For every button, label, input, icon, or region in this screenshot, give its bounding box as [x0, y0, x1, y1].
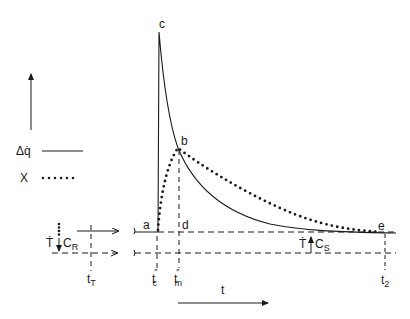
- cs-tdot: Ṫ: [299, 237, 307, 251]
- point-b-label: b: [181, 134, 188, 148]
- point-c-label: c: [159, 17, 165, 31]
- diagram-canvas: Δq̇ X c b a d e Ṫ CR: [0, 0, 410, 319]
- point-a-label: a: [143, 218, 150, 232]
- legend: Δq̇ X: [16, 144, 83, 185]
- time-axis-arrow: t: [178, 283, 268, 303]
- x-curve: [158, 148, 380, 232]
- time-axis-label: t: [221, 283, 225, 297]
- cr-tdot: Ṫ: [46, 236, 54, 250]
- point-d-label: d: [182, 218, 189, 232]
- legend-dq-label: Δq̇: [16, 144, 31, 158]
- dq-curve: [158, 32, 396, 233]
- time-label-tc: t″c: [152, 267, 158, 288]
- time-label-t2: t2: [381, 273, 389, 289]
- lower-baseline: [52, 250, 396, 256]
- cr-indicator: Ṫ CR: [46, 224, 79, 252]
- point-e-label: e: [378, 219, 385, 233]
- legend-x-label: X: [20, 171, 28, 185]
- time-label-tT: tT: [87, 272, 96, 288]
- cs-label: CS: [315, 237, 330, 253]
- cs-indicator: Ṫ CS: [299, 237, 330, 253]
- cr-label: CR: [63, 236, 79, 252]
- time-label-tm: t″m: [174, 267, 182, 288]
